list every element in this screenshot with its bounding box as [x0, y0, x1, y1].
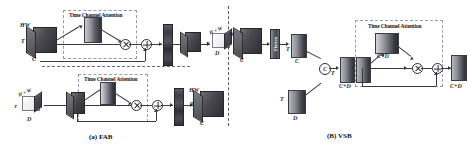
- tensor-front-face: [33, 27, 57, 53]
- tensor-side-face: [233, 26, 243, 59]
- connector-fab-bottom-mul-to-add: [140, 105, 152, 106]
- skip-fab-top-h: [40, 61, 145, 62]
- connector-fab-bottom-main: [84, 105, 131, 106]
- connector-vsb-bottom-to-concat: [305, 83, 321, 96]
- label-fab-top-output-bottom: D: [215, 50, 219, 56]
- label-vsb-concat-out-bottom: C+D: [339, 83, 351, 89]
- label-vsb-input-bottom: C: [240, 57, 244, 63]
- tensor-side-face: [193, 89, 203, 122]
- skip-vsb-v-left: [362, 68, 363, 86]
- connector-fab-top-mul-to-add: [129, 44, 141, 45]
- tensor-side-face: [26, 25, 36, 58]
- label-fab-top-input-bottom: C: [32, 56, 36, 62]
- flatten-label: Flatten: [273, 37, 278, 51]
- label-fab-bottom-input-bottom: D: [27, 116, 31, 122]
- concat-block-a-vsb: [340, 57, 355, 83]
- connector-fab-bottom-in: [44, 105, 68, 106]
- tensor-side-face: [180, 31, 188, 57]
- connector-fab-top-main: [56, 44, 120, 45]
- skip-fab-bottom-arrow: [154, 109, 158, 112]
- figure-root: Time Channel Attention HW T C: [0, 0, 468, 149]
- label-fab-bottom-output-bottom: C: [200, 120, 204, 126]
- feature-block-vsb-top: [291, 34, 307, 58]
- label-fab-top-input-top: HW: [20, 22, 30, 28]
- panel-divider: [228, 6, 229, 126]
- reshape-bar-fab-top: [163, 24, 173, 66]
- label-fab-bottom-output-top: HW: [189, 87, 199, 93]
- arrowhead-fab-top-bar: [159, 42, 162, 46]
- attention-map-fab-bottom: [100, 82, 116, 105]
- arrowhead-vsb-concat-out: [336, 66, 339, 70]
- label-vsb-concat-out-left: T: [331, 70, 335, 76]
- label-vsb-second-input-left: T: [280, 96, 284, 102]
- concat-symbol: C: [320, 64, 330, 74]
- arrowhead-vsb-main: [404, 66, 407, 70]
- skip-vsb-h: [362, 86, 436, 87]
- caption-fab: (a) FAB: [89, 133, 112, 141]
- caption-vsb: (B) VSB: [327, 132, 352, 140]
- input-tensor-fab-bottom: [22, 98, 38, 111]
- label-fab-top-output-left: T: [206, 41, 209, 46]
- attention-map-vsb: [375, 33, 399, 54]
- skip-vsb-arrow: [434, 72, 438, 75]
- label-vsb-output: C+D: [450, 83, 462, 89]
- connector-vsb-top-to-concat: [305, 50, 321, 59]
- input-tensor-fab-top: [33, 29, 55, 53]
- output-tensor-fab-top: [212, 35, 228, 48]
- tensor-side-face: [66, 91, 74, 119]
- tensor-front-face: [200, 91, 224, 117]
- output-block-vsb: [451, 55, 467, 81]
- label-vsb-after-flatten-bottom: C: [295, 58, 299, 64]
- label-vsb-input-top: W: [229, 31, 234, 37]
- tensor-side-face: [34, 91, 42, 112]
- label-vsb-after-flatten-left: T: [286, 46, 290, 52]
- feature-block-vsb-bottom: [288, 90, 306, 114]
- mid-tensor-fab-top: [185, 34, 199, 52]
- label-fab-top-input-left: T: [21, 38, 25, 44]
- label-vsb-attention-map: C+D: [377, 53, 389, 59]
- arrowhead-fab-bottom-bar: [170, 103, 173, 107]
- row-separator-fab: [42, 66, 190, 67]
- skip-fab-top-arrow: [143, 48, 147, 51]
- attention-map-fab-top: [84, 17, 102, 43]
- output-tensor-fab-bottom: [200, 93, 222, 117]
- label-vsb-second-input-bottom: D: [293, 115, 297, 121]
- skip-fab-bottom-v-left: [77, 105, 78, 121]
- input-tensor-vsb: [240, 30, 260, 54]
- tensor-front-face: [240, 28, 262, 54]
- reshape-bar-fab-bottom: [174, 88, 184, 126]
- tca-box-vsb: [355, 20, 443, 87]
- skip-fab-bottom-h: [77, 121, 156, 122]
- concat-circle-icon-vsb: C: [319, 63, 331, 75]
- label-fab-bottom-input-left: T: [14, 104, 17, 109]
- tca-title-vsb: Time Channel Attention: [368, 23, 421, 29]
- connector-vsb-mul-to-add: [421, 68, 432, 69]
- label-fab-bottom-output-left: T: [190, 101, 194, 107]
